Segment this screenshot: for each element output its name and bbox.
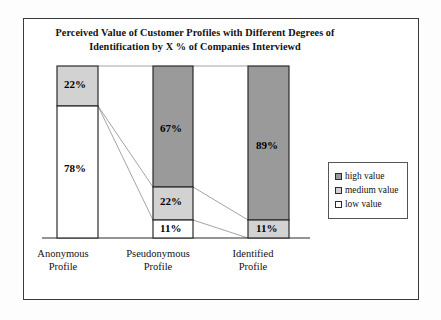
- category-label-identified-line-1: Identified: [198, 247, 308, 260]
- stacked-bar-svg: [42, 60, 310, 242]
- legend-label-medium-value: medium value: [345, 185, 398, 195]
- bar-anonymous-segment-medium-value: [57, 66, 98, 106]
- chart-title: Perceived Value of Customer Profiles wit…: [30, 26, 360, 54]
- legend-item-low-value: low value: [335, 199, 402, 209]
- connector-mid-1-2-b: [98, 106, 153, 220]
- category-label-pseudonymous-line-2: Profile: [103, 260, 213, 273]
- chart-title-line-1: Perceived Value of Customer Profiles wit…: [30, 26, 360, 40]
- chart-title-line-2: Identification by X % of Companies Inter…: [30, 40, 360, 54]
- category-label-anonymous-line-2: Profile: [8, 260, 118, 273]
- connector-mid-2-3-a: [193, 187, 248, 220]
- legend-swatch-medium-value-icon: [335, 187, 342, 194]
- category-label-pseudonymous-profile: Pseudonymous Profile: [103, 247, 213, 273]
- bar-identified-profile: [248, 66, 289, 238]
- bar-pseudonymous-segment-high-value: [153, 66, 193, 187]
- plot-area: 22% 78% 67% 22% 11% 89% 11%: [42, 60, 310, 242]
- connector-mid-1-2-a: [98, 106, 153, 187]
- legend-swatch-high-value-icon: [335, 173, 342, 180]
- legend-swatch-low-value-icon: [335, 201, 342, 208]
- bar-pseudonymous-segment-low-value: [153, 220, 193, 238]
- legend-item-medium-value: medium value: [335, 185, 402, 195]
- bar-pseudonymous-profile: [153, 66, 193, 238]
- category-label-identified-line-2: Profile: [198, 260, 308, 273]
- legend-label-high-value: high value: [345, 171, 384, 181]
- category-label-identified-profile: Identified Profile: [198, 247, 308, 273]
- category-label-pseudonymous-line-1: Pseudonymous: [103, 247, 213, 260]
- bar-anonymous-profile: [57, 66, 98, 238]
- category-label-anonymous-profile: Anonymous Profile: [8, 247, 118, 273]
- connector-mid-2-3-b: [193, 220, 248, 238]
- bar-pseudonymous-segment-medium-value: [153, 187, 193, 220]
- category-label-anonymous-line-1: Anonymous: [8, 247, 118, 260]
- bar-anonymous-segment-low-value: [57, 106, 98, 238]
- bar-identified-segment-high-value: [248, 66, 289, 220]
- chart-legend: high value medium value low value: [328, 162, 408, 219]
- legend-label-low-value: low value: [345, 199, 382, 209]
- chart-figure: Perceived Value of Customer Profiles wit…: [0, 0, 441, 320]
- bar-identified-segment-medium-value: [248, 220, 289, 238]
- legend-item-high-value: high value: [335, 171, 402, 181]
